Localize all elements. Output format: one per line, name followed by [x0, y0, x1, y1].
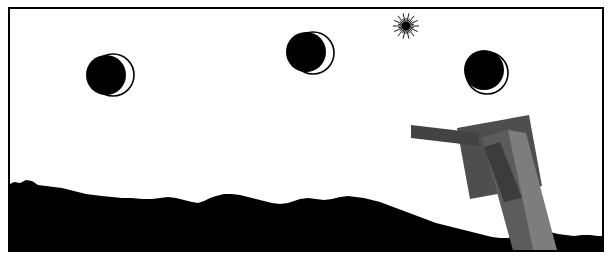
moon-2-shadow [286, 32, 326, 72]
illustration-canvas: Moon Phases Over Dark Horizon [0, 0, 613, 260]
artwork-frame [8, 7, 604, 252]
scene-graphic [10, 9, 602, 250]
moon-3-shadow [464, 50, 504, 90]
moon-1-shadow [86, 55, 126, 95]
moon-1 [86, 54, 134, 96]
sun-core [402, 22, 410, 30]
